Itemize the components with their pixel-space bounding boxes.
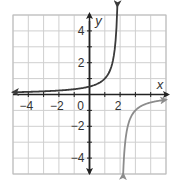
x-tick-label: −4: [19, 99, 33, 113]
x-tick-label: 0: [77, 99, 84, 113]
y-tick-label: 4: [78, 24, 85, 38]
function-graph: −4−20242−2−4xy: [0, 0, 177, 189]
right-branch-curve: [123, 100, 166, 174]
axes: [13, 14, 168, 174]
y-tick-label: −2: [71, 119, 85, 133]
x-axis-label: x: [156, 77, 164, 92]
y-tick-label: 2: [78, 56, 85, 70]
x-tick-label: 2: [115, 99, 122, 113]
x-tick-label: −2: [50, 99, 64, 113]
y-tick-label: −4: [71, 151, 85, 165]
